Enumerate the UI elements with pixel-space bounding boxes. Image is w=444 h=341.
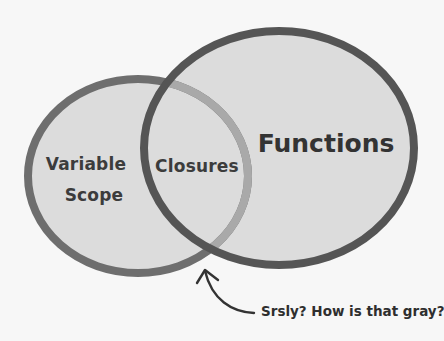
closures-label: Closures xyxy=(155,156,239,176)
annotation-arrow xyxy=(197,270,254,313)
variable-scope-label-line-2: Scope xyxy=(65,185,124,205)
annotation-text: Srsly? How is that gray? xyxy=(261,303,444,319)
arrow-shaft xyxy=(205,271,254,313)
functions-label: Functions xyxy=(258,129,395,158)
variable-scope-label-line-1: Variable xyxy=(46,154,127,174)
venn-diagram: Variable Scope Closures Functions Srsly?… xyxy=(0,0,444,341)
